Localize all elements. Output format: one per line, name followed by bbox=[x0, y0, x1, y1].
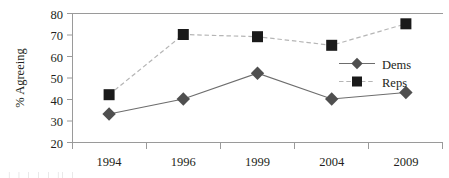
data-point-reps-2004 bbox=[326, 40, 337, 51]
data-point-reps-2009 bbox=[400, 18, 411, 29]
x-tick-label-1994: 1994 bbox=[97, 155, 123, 169]
y-tick-label-20: 20 bbox=[51, 137, 64, 151]
y-tick-label-30: 30 bbox=[51, 115, 64, 129]
y-tick-label-40: 40 bbox=[51, 94, 64, 108]
chart-container: 80 70 60 50 40 30 20 1994 1996 1999 2004… bbox=[0, 0, 449, 178]
cropped-caption-text: | | | | | || | bbox=[8, 172, 76, 178]
x-tick-label-1999: 1999 bbox=[245, 155, 270, 169]
line-chart: 80 70 60 50 40 30 20 1994 1996 1999 2004… bbox=[0, 0, 449, 178]
x-tick-label-2009: 2009 bbox=[393, 155, 418, 169]
square-marker-icon bbox=[352, 77, 362, 87]
y-axis-ticks bbox=[67, 14, 72, 143]
data-point-reps-1994 bbox=[104, 89, 115, 100]
x-tick-label-1996: 1996 bbox=[171, 155, 196, 169]
y-tick-label-50: 50 bbox=[51, 72, 64, 86]
y-tick-label-70: 70 bbox=[51, 29, 64, 43]
y-tick-label-60: 60 bbox=[51, 51, 64, 65]
y-axis-title: % Agreeing bbox=[13, 48, 27, 108]
data-point-reps-1999 bbox=[252, 31, 263, 42]
legend-label-reps: Reps bbox=[382, 76, 407, 90]
legend-label-dems: Dems bbox=[382, 58, 411, 72]
data-point-reps-1996 bbox=[178, 29, 189, 40]
x-axis-ticks bbox=[73, 142, 443, 149]
cropped-caption-strip: | | | | | || | bbox=[0, 172, 449, 178]
x-tick-label-2004: 2004 bbox=[319, 155, 345, 169]
y-tick-label-80: 80 bbox=[51, 8, 64, 22]
